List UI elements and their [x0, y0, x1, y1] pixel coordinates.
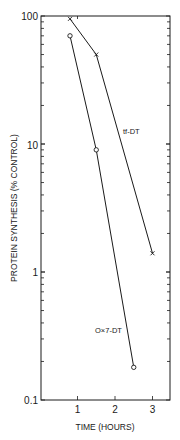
y-tick-10: 10 [27, 140, 39, 151]
series-markers-tf-dt [68, 17, 155, 255]
protein-synthesis-chart: 100 10 1 0.1 1 2 3 TIME (HOURS) PROTEIN … [0, 0, 180, 440]
series-line-ox7-dt [70, 36, 134, 367]
y-axis-title: PROTEIN SYNTHESIS (% CONTROL) [9, 134, 19, 282]
x-tick-2: 2 [112, 404, 118, 415]
x-tick-3: 3 [150, 404, 156, 415]
series-line-tf-dt [70, 19, 153, 253]
x-axis-ticks [78, 16, 153, 400]
x-tick-1: 1 [75, 404, 81, 415]
y-axis-ticks [41, 16, 170, 400]
plot-frame [41, 16, 170, 400]
x-axis-title: TIME (HOURS) [75, 422, 134, 432]
series-label-tf-dt: tf-DT [123, 127, 140, 136]
y-tick-1: 1 [32, 267, 38, 278]
y-tick-0.1: 0.1 [24, 395, 38, 406]
series-label-ox7-dt: O×7-DT [95, 326, 122, 335]
y-tick-100: 100 [21, 11, 38, 22]
